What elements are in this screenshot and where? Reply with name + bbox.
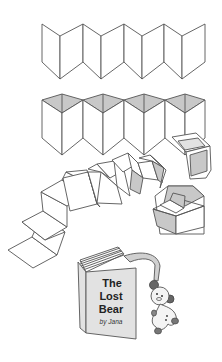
book-title-line-1: The <box>102 277 122 289</box>
teddy-bear-icon <box>150 281 179 335</box>
finished-book: The Lost Bear by Jana <box>78 247 160 339</box>
book-title-line-3: Bear <box>99 303 124 315</box>
step-1-accordion <box>42 24 205 79</box>
step-3-accordion-into-box <box>8 153 166 268</box>
book-byline: by Jana <box>100 318 123 326</box>
book-title-line-2: Lost <box>99 290 123 302</box>
accordion-book-illustration: The Lost Bear by Jana <box>0 0 222 362</box>
